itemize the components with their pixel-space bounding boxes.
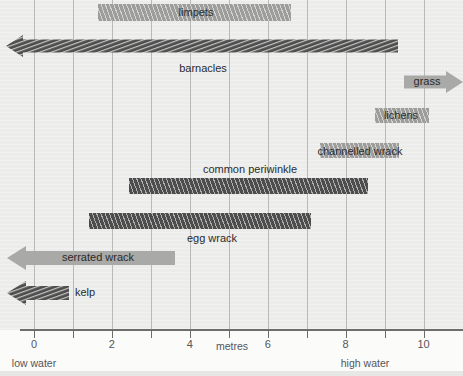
tick-7m xyxy=(307,331,308,338)
bar-label-channelled-wrack: channelled wrack xyxy=(318,145,403,157)
high-water-annotation: high water xyxy=(341,357,389,369)
tick-4m xyxy=(190,331,191,338)
tick-label-8: 8 xyxy=(343,338,349,350)
bar-label-limpets: limpets xyxy=(179,6,214,18)
tick-8m xyxy=(346,331,347,338)
tick-10m xyxy=(424,331,425,338)
bar-egg-wrack[interactable] xyxy=(89,213,311,229)
bar-label-common-periwinkle: common periwinkle xyxy=(203,163,297,175)
x-axis-label: metres xyxy=(216,340,248,352)
tick-5m xyxy=(229,331,230,338)
zonation-chart-figure: limpets barnacles grass l xyxy=(0,0,463,376)
bar-label-lichens: lichens xyxy=(384,109,418,121)
tick-0m xyxy=(34,331,35,338)
gridline-10m xyxy=(424,0,425,330)
figure-bottom-edge xyxy=(0,371,463,376)
tick-label-10: 10 xyxy=(417,338,429,350)
bar-label-barnacles: barnacles xyxy=(179,62,227,74)
bar-egg-wrack-body xyxy=(89,213,311,229)
bar-label-serrated-wrack: serrated wrack xyxy=(62,251,134,263)
bar-barnacles-shape xyxy=(6,35,398,57)
tick-6m xyxy=(268,331,269,338)
tick-label-6: 6 xyxy=(265,338,271,350)
axis-area-background xyxy=(0,330,463,376)
bar-label-grass: grass xyxy=(414,75,441,87)
x-axis-line xyxy=(20,329,463,331)
tick-3m xyxy=(151,331,152,338)
tick-label-4: 4 xyxy=(187,338,193,350)
bar-common-periwinkle[interactable] xyxy=(129,178,368,194)
tick-9m xyxy=(385,331,386,338)
plot-area: limpets barnacles grass l xyxy=(0,0,463,330)
bar-common-periwinkle-body xyxy=(129,178,368,194)
tick-2m xyxy=(112,331,113,338)
tick-label-2: 2 xyxy=(109,338,115,350)
tick-1m xyxy=(73,331,74,338)
bar-label-egg-wrack: egg wrack xyxy=(187,232,237,244)
tick-label-0: 0 xyxy=(31,338,37,350)
bar-kelp-shape xyxy=(7,281,69,305)
bar-kelp[interactable] xyxy=(7,280,69,306)
bar-label-kelp: kelp xyxy=(75,286,95,298)
low-water-annotation: low water xyxy=(12,357,56,369)
bar-barnacles[interactable] xyxy=(6,34,398,58)
